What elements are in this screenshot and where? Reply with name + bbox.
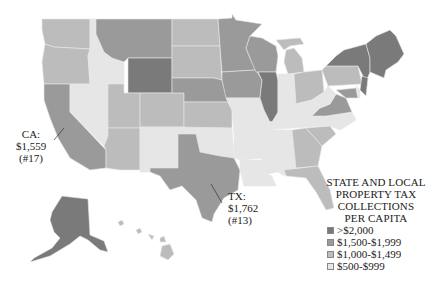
state-sd bbox=[172, 46, 222, 80]
tx-callout-state: TX: bbox=[228, 190, 268, 202]
ca-callout: CA: $1,559 (#17) bbox=[12, 128, 50, 164]
tx-callout: TX: $1,762 (#13) bbox=[228, 190, 268, 226]
legend-swatch-icon bbox=[327, 263, 334, 270]
legend-item-1000-1499: $1,000-$1,499 bbox=[327, 248, 434, 260]
legend-title-line: STATE AND LOCAL bbox=[318, 176, 434, 188]
state-ms bbox=[262, 130, 278, 174]
legend-swatch-icon bbox=[327, 251, 334, 258]
legend-title-line: PER CAPITA bbox=[318, 212, 434, 224]
legend-item-1500-1999: $1,500-$1,999 bbox=[327, 236, 434, 248]
legend-title-line: COLLECTIONS bbox=[318, 200, 434, 212]
state-mi bbox=[276, 38, 304, 74]
state-co bbox=[140, 93, 184, 127]
legend-swatch-icon bbox=[327, 227, 334, 234]
legend-title: STATE AND LOCAL PROPERTY TAX COLLECTIONS… bbox=[318, 176, 434, 224]
state-ar bbox=[234, 134, 266, 160]
state-or bbox=[42, 44, 90, 84]
state-ak bbox=[30, 196, 108, 262]
legend-swatch-icon bbox=[327, 239, 334, 246]
state-nd bbox=[172, 19, 220, 46]
legend-label: >$2,000 bbox=[337, 224, 373, 236]
state-nm bbox=[140, 127, 178, 172]
legend-label: $1,500-$1,999 bbox=[337, 236, 401, 248]
state-wa bbox=[42, 19, 90, 49]
state-new-england bbox=[366, 30, 404, 78]
ca-callout-state: CA: bbox=[12, 128, 50, 140]
tx-callout-rank: (#13) bbox=[228, 214, 268, 226]
legend-title-line: PROPERTY TAX bbox=[318, 188, 434, 200]
legend-item-500-999: $500-$999 bbox=[327, 260, 434, 272]
map-legend: STATE AND LOCAL PROPERTY TAX COLLECTIONS… bbox=[318, 176, 434, 272]
state-ia bbox=[222, 70, 262, 98]
legend-item-over-2000: >$2,000 bbox=[327, 224, 434, 236]
state-nj bbox=[360, 76, 368, 96]
state-pa bbox=[322, 66, 362, 86]
state-az bbox=[104, 128, 140, 170]
ca-callout-rank: (#17) bbox=[12, 152, 50, 164]
legend-label: $1,000-$1,499 bbox=[337, 248, 401, 260]
state-hi bbox=[118, 220, 174, 260]
tx-callout-value: $1,762 bbox=[228, 202, 268, 214]
legend-label: $500-$999 bbox=[337, 260, 385, 272]
state-ks bbox=[184, 102, 232, 128]
state-wy bbox=[128, 58, 172, 93]
ca-callout-value: $1,559 bbox=[12, 140, 50, 152]
